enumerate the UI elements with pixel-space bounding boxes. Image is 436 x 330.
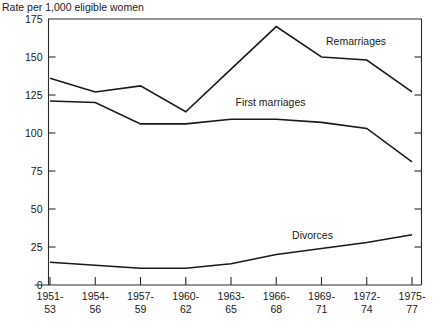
x-tick-label-bottom: 77 [406,303,418,315]
x-tick-marks [50,277,412,285]
y-axis-title: Rate per 1,000 eligible women [2,1,144,13]
x-tick-label-bottom: 56 [89,303,101,315]
y-tick-label: 50 [31,203,43,215]
x-tick-label-top: 1960- [172,290,199,302]
line-chart: Rate per 1,000 eligible women 1751501251… [0,0,436,330]
y-axis-title-group: Rate per 1,000 eligible women [2,1,144,13]
right-axis-tick-marks [415,57,422,247]
x-tick-label-top: 1966- [263,290,290,302]
x-tick-label-bottom: 62 [180,303,192,315]
plot-border [49,19,422,285]
x-tick-label-top: 1951- [37,290,64,302]
x-tick-label-bottom: 68 [270,303,282,315]
y-tick-label: 150 [25,51,43,63]
series-annotations: RemarriagesFirst marriagesDivorces [236,35,387,242]
plot-frame [35,19,422,285]
x-tick-label-bottom: 65 [225,303,237,315]
series-label-divorces: Divorces [292,229,333,241]
y-tick-label: 25 [31,241,43,253]
series-label-first-marriages: First marriages [236,96,306,108]
series-label-remarriages: Remarriages [326,35,386,47]
x-tick-label-bottom: 71 [316,303,328,315]
y-tick-label: 75 [31,165,43,177]
y-tick-marks [49,57,56,247]
series-line-first-marriages [50,101,412,162]
x-tick-label-bottom: 59 [135,303,147,315]
x-tick-label-top: 1957- [127,290,154,302]
x-tick-label-top: 1963- [218,290,245,302]
data-series-lines [50,27,412,269]
series-line-divorces [50,235,412,268]
x-tick-label-top: 1969- [308,290,335,302]
x-tick-label-bottom: 74 [361,303,373,315]
x-tick-label-top: 1954- [82,290,109,302]
chart-container: Rate per 1,000 eligible women 1751501251… [0,0,436,330]
y-tick-label: 125 [25,89,43,101]
x-tick-label-top: 1975- [399,290,426,302]
x-tick-label-bottom: 53 [44,303,56,315]
y-tick-label: 100 [25,127,43,139]
x-tick-label-top: 1972- [353,290,380,302]
y-tick-labels: 1751501251007550250 [25,13,43,291]
y-tick-label: 175 [25,13,43,25]
x-tick-labels: 1951-531954-561957-591960-621963-651966-… [37,290,426,315]
